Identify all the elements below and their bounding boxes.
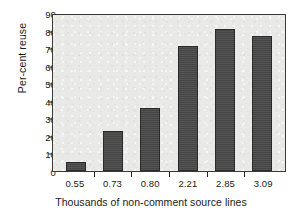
y-axis-tick-label: 0	[16, 167, 56, 178]
bar	[178, 46, 198, 171]
y-axis-tick-label: 90	[16, 9, 56, 20]
x-axis-tick-mark	[207, 172, 208, 177]
bar-slot	[244, 15, 281, 171]
bar	[215, 29, 235, 171]
x-axis-tick-mark	[244, 172, 245, 177]
chart-figure: Per-cent reuse 0102030405060708090 0.550…	[0, 0, 302, 218]
x-axis-tick-mark	[169, 172, 170, 177]
x-axis-title: Thousands of non-comment source lines	[0, 196, 302, 208]
bar-slot	[94, 15, 131, 171]
x-axis-tick-mark	[94, 172, 95, 177]
bar-slot	[132, 15, 169, 171]
x-axis-tick-labels: 0.550.730.802.212.853.09	[52, 178, 286, 189]
x-axis-tick-label: 0.80	[131, 178, 169, 189]
x-axis-tick-label: 0.55	[56, 178, 94, 189]
bar	[66, 162, 86, 171]
x-axis-tick-label: 3.09	[244, 178, 282, 189]
bar-series	[53, 15, 285, 171]
bar	[252, 36, 272, 171]
x-axis-tick-mark	[131, 172, 132, 177]
x-axis-tick-label: 0.73	[94, 178, 132, 189]
bar-slot	[206, 15, 243, 171]
bar	[103, 131, 123, 171]
bar	[140, 108, 160, 171]
plot-area	[52, 14, 286, 172]
x-axis-tick-label: 2.85	[207, 178, 245, 189]
x-axis-tick-label: 2.21	[169, 178, 207, 189]
bar-slot	[57, 15, 94, 171]
bar-slot	[169, 15, 206, 171]
